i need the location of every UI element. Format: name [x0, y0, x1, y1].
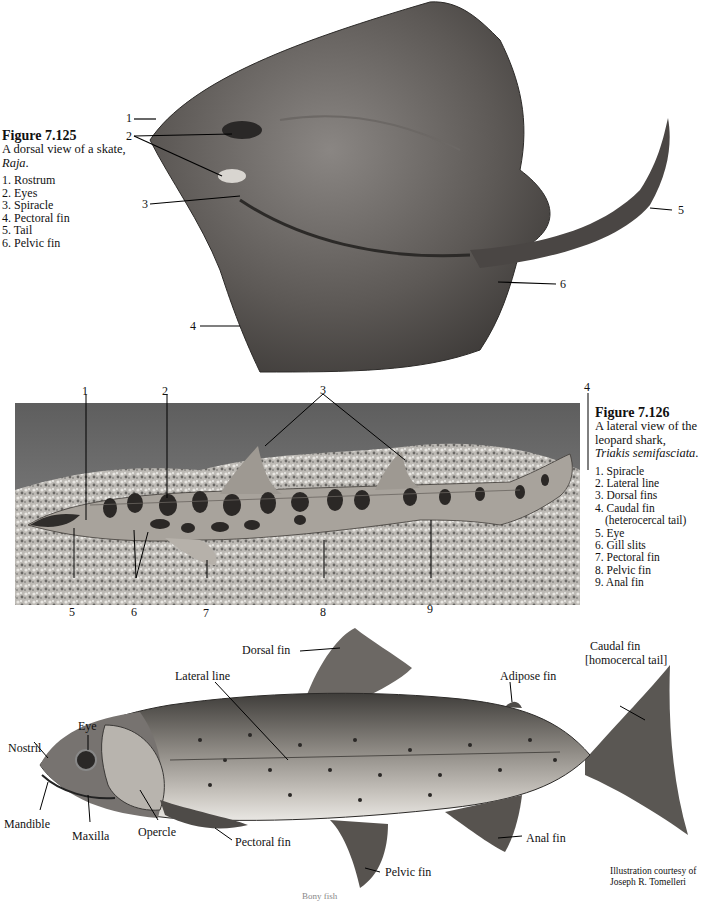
legend-item: 6. Gill slits	[595, 539, 701, 551]
trout-eye	[76, 750, 96, 770]
figure-126-caption-block: Figure 7.126 A lateral view of the leopa…	[595, 405, 701, 589]
skate-callout-5: 5	[678, 204, 684, 216]
trout-opercle	[102, 725, 165, 810]
trout-pelvic-fin	[330, 820, 388, 888]
skate-body	[150, 2, 550, 372]
figure-126-legend: 1. Spiracle 2. Lateral line 3. Dorsal fi…	[595, 465, 701, 589]
skate-callout-2: 2	[126, 130, 132, 142]
trout-label-pectoral-fin: Pectoral fin	[235, 836, 291, 848]
illustration-credit: Illustration courtesy of Joseph R. Tomel…	[610, 866, 697, 888]
skate-spiracle	[218, 169, 246, 183]
skate-callout-3: 3	[142, 198, 148, 210]
trout-label-anal-fin: Anal fin	[526, 832, 566, 844]
trout-label-maxilla: Maxilla	[72, 830, 109, 842]
skate-callout-1: 1	[126, 112, 132, 124]
shark-body	[28, 454, 572, 541]
trout-label-dorsal-fin: Dorsal fin	[242, 644, 290, 656]
trout-caudal-fin	[585, 665, 688, 835]
shark-photo-background	[15, 403, 580, 605]
shark-spots	[103, 474, 549, 533]
legend-item: 7. Pectoral fin	[595, 551, 701, 563]
trout-anal-fin	[445, 795, 522, 852]
shark-leader-lines	[74, 393, 588, 578]
legend-item: 8. Pelvic fin	[595, 564, 701, 576]
credit-line-2: Joseph R. Tomelleri	[610, 877, 697, 888]
shark-callout-7: 7	[203, 607, 209, 619]
shark-callout-3: 3	[320, 384, 326, 396]
shark-callout-9: 9	[427, 603, 433, 615]
caption-period: .	[695, 446, 698, 460]
legend-item: 2. Lateral line	[595, 477, 701, 489]
trout-label-adipose-fin: Adipose fin	[500, 670, 556, 682]
caption-species: Triakis semifasciata	[595, 446, 695, 460]
legend-item: 9. Anal fin	[595, 576, 701, 588]
trout-dorsal-fin	[305, 628, 412, 700]
caption-text: A lateral view of the leopard shark,	[595, 419, 697, 447]
trout-body	[40, 693, 590, 820]
skate-photo	[0, 0, 701, 380]
figure-126-caption: A lateral view of the leopard shark, Tri…	[595, 420, 701, 461]
legend-item: 3. Dorsal fins	[595, 489, 701, 501]
trout-spots	[198, 733, 557, 802]
trout-adipose-fin	[505, 702, 522, 708]
shark-callout-4: 4	[584, 381, 590, 393]
trout-label-caudal-fin: Caudal fin	[590, 640, 640, 652]
legend-item: 4. Caudal fin	[595, 502, 701, 514]
shark-callout-8: 8	[320, 606, 326, 618]
trout-label-nostril: Nostril	[8, 742, 41, 754]
credit-line-1: Illustration courtesy of	[610, 866, 697, 877]
figure-126-number: Figure 7.126	[595, 405, 701, 420]
legend-item: 1. Spiracle	[595, 465, 701, 477]
shark-callout-1: 1	[82, 385, 88, 397]
legend-item: (heterocercal tail)	[595, 514, 701, 526]
skate-callout-4: 4	[190, 320, 196, 332]
shark-callout-6: 6	[131, 606, 137, 618]
trout-label-mandible: Mandible	[4, 818, 50, 830]
page-footer: Bony fish	[302, 891, 337, 901]
trout-label-eye: Eye	[78, 720, 97, 732]
trout-head	[40, 712, 162, 818]
shark-callout-5: 5	[69, 606, 75, 618]
skate-callout-6: 6	[560, 278, 566, 290]
legend-item: 5. Eye	[595, 527, 701, 539]
shark-callout-2: 2	[162, 385, 168, 397]
skate-eye	[222, 121, 262, 139]
trout-label-pelvic-fin: Pelvic fin	[385, 866, 431, 878]
trout-label-lateral-line: Lateral line	[175, 670, 230, 682]
trout-label-caudal-fin-type: [homocercal tail]	[585, 654, 667, 666]
trout-label-opercle: Opercle	[138, 826, 176, 838]
